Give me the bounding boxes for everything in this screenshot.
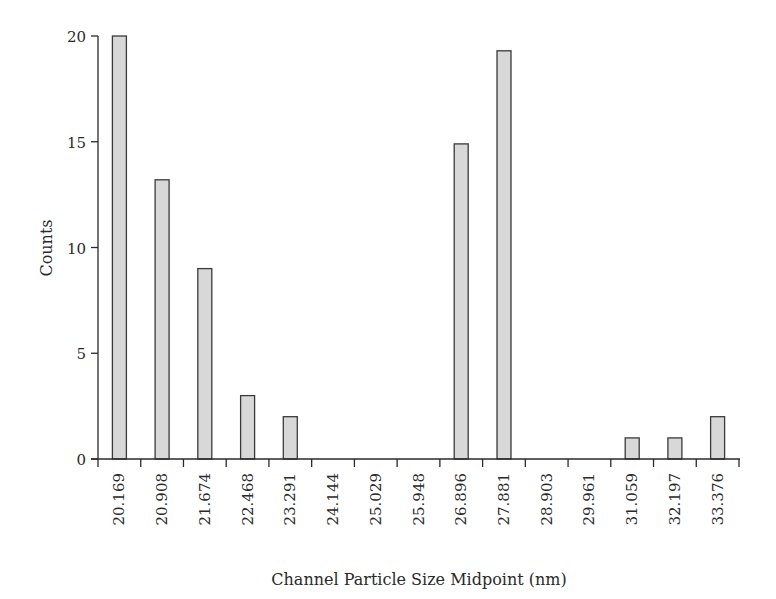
x-tick-label: 27.881 — [495, 473, 513, 526]
x-tick-label: 25.948 — [410, 473, 428, 526]
x-tick-label: 31.059 — [623, 473, 641, 526]
x-tick-label: 33.376 — [709, 473, 727, 526]
x-tick-label: 32.197 — [666, 473, 684, 526]
x-tick-label: 26.896 — [452, 473, 470, 526]
x-tick-label: 21.674 — [196, 473, 214, 526]
bar-chart: 05101520 20.16920.90821.67422.46823.2912… — [0, 0, 776, 599]
x-tick-label: 23.291 — [281, 473, 299, 526]
bars-group — [112, 36, 724, 459]
bar-23.291 — [283, 417, 297, 459]
bar-26.896 — [454, 144, 468, 459]
x-tick-label: 20.169 — [110, 473, 128, 526]
y-tick-label: 15 — [67, 134, 86, 152]
x-axis: 20.16920.90821.67422.46823.29124.14425.0… — [91, 459, 740, 526]
bar-20.169 — [112, 36, 126, 459]
x-tick-label: 28.903 — [538, 473, 556, 526]
y-axis: 05101520 — [67, 28, 98, 469]
y-tick-label: 0 — [76, 451, 86, 469]
bar-20.908 — [155, 180, 169, 459]
bar-27.881 — [497, 51, 511, 459]
bar-33.376 — [711, 417, 725, 459]
x-tick-label: 29.961 — [580, 473, 598, 526]
x-tick-label: 25.029 — [367, 473, 385, 526]
bar-32.197 — [668, 438, 682, 459]
y-tick-label: 20 — [67, 28, 86, 46]
x-tick-label: 20.908 — [153, 473, 171, 526]
x-tick-label: 22.468 — [239, 473, 257, 526]
y-tick-label: 5 — [76, 345, 86, 363]
bar-21.674 — [198, 269, 212, 459]
x-tick-label: 24.144 — [324, 473, 342, 526]
y-tick-label: 10 — [67, 240, 86, 258]
bar-31.059 — [625, 438, 639, 459]
y-axis-title: Counts — [37, 219, 56, 276]
bar-22.468 — [241, 396, 255, 459]
x-axis-title: Channel Particle Size Midpoint (nm) — [271, 570, 566, 589]
